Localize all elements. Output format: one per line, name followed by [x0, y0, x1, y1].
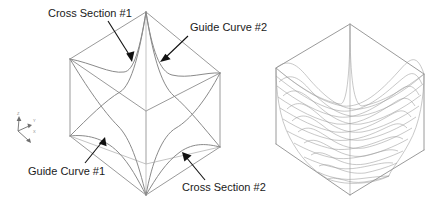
- axis-line-x: [18, 131, 28, 140]
- diagram-canvas: Z Y X Cross Section #1 Guide Curve #2 Gu…: [0, 0, 434, 208]
- axis-triad: Z Y X: [17, 111, 36, 143]
- leader-line-guide-curve-2: [165, 36, 188, 58]
- leader-line-cross-section-1: [108, 21, 130, 56]
- leader-guide-curve-2: [160, 36, 188, 62]
- rbox-edge-top-right: [350, 24, 424, 74]
- arrowhead-cross-section-2: [182, 152, 192, 161]
- label-cross-section-1: Cross Section #1: [48, 7, 132, 19]
- axis-line-y: [18, 126, 29, 131]
- annotation-labels: Cross Section #1 Guide Curve #2 Guide Cu…: [28, 7, 267, 193]
- axis-label-x: X: [33, 129, 36, 134]
- axis-label-y: Y: [33, 118, 36, 123]
- mesh-v-1: [279, 77, 423, 116]
- leader-cross-section-2: [182, 152, 205, 180]
- rbox-edge-top-left: [276, 24, 350, 68]
- label-guide-curve-1: Guide Curve #1: [28, 165, 105, 177]
- box-edge-bottom-back-left: [70, 136, 146, 164]
- mesh-boundary-back-left: [276, 24, 350, 104]
- curve-rail-left-lower: [70, 12, 146, 136]
- leader-line-guide-curve-1: [85, 142, 102, 163]
- label-cross-section-2: Cross Section #2: [182, 181, 266, 193]
- mesh-u-9: [318, 172, 389, 179]
- arrowhead-guide-curve-2: [160, 54, 171, 62]
- label-guide-curve-2: Guide Curve #2: [190, 21, 267, 33]
- box-edge-top-left: [70, 12, 146, 59]
- axis-label-z: Z: [17, 111, 20, 116]
- mesh-v-5: [298, 128, 412, 148]
- mesh-u-4: [280, 108, 411, 132]
- annotation-leaders: [85, 21, 205, 180]
- axis-arrow-z: [17, 116, 22, 121]
- axis-arrow-y: [27, 123, 32, 128]
- mesh-u-8: [304, 157, 393, 169]
- mesh-u-3: [278, 97, 415, 124]
- rbox-edge-bottom-right: [350, 150, 424, 195]
- figure-root: Z Y X Cross Section #1 Guide Curve #2 Gu…: [0, 0, 434, 208]
- mesh-boundary-back-right: [350, 24, 424, 106]
- leader-line-cross-section-2: [186, 157, 205, 180]
